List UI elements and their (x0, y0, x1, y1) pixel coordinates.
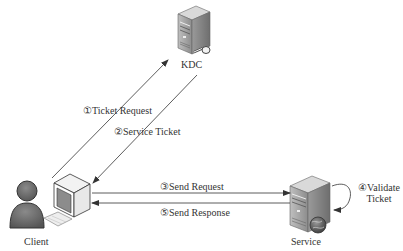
service-server-icon (290, 176, 330, 233)
kdc-server-icon (178, 6, 210, 54)
edge-ticket-request (52, 60, 168, 178)
send-request-label: ③Send Request (160, 181, 224, 192)
user-icon (10, 181, 44, 228)
send-response-label: ⑤Send Response (160, 207, 230, 218)
kerberos-diagram: KDC Client Service ①Ticket Request ②Serv… (0, 0, 403, 251)
client-label: Client (24, 236, 48, 247)
ticket-request-label: ①Ticket Request (83, 105, 152, 116)
validate-ticket-line1: ④Validate (356, 182, 402, 193)
validate-ticket-line2: Ticket (356, 193, 402, 204)
globe-icon (310, 217, 326, 233)
service-label: Service (291, 236, 321, 247)
computer-icon (44, 174, 90, 226)
service-ticket-label: ②Service Ticket (114, 126, 181, 137)
validate-ticket-label: ④Validate Ticket (356, 182, 402, 204)
edge-validate-ticket (332, 184, 350, 210)
kdc-label: KDC (181, 59, 202, 70)
